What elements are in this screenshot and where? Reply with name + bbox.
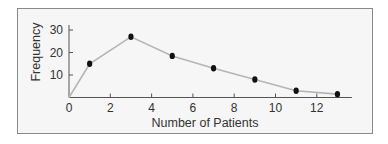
x-tick-label: 12 xyxy=(310,101,324,115)
x-tick-label: 2 xyxy=(107,101,114,115)
data-point xyxy=(335,91,340,97)
y-axis-label: Frequency xyxy=(29,22,43,82)
series-frequency xyxy=(69,34,340,98)
data-point xyxy=(128,34,133,40)
data-point xyxy=(252,76,257,82)
data-point xyxy=(170,53,175,59)
frequency-line-chart: 102030024681012 Number of Patients Frequ… xyxy=(0,0,388,144)
x-tick-label: 10 xyxy=(269,101,283,115)
data-point xyxy=(211,65,216,71)
y-tick-label: 10 xyxy=(50,68,64,82)
y-tick-label: 30 xyxy=(50,23,64,37)
x-axis-label: Number of Patients xyxy=(152,116,259,130)
data-point xyxy=(294,88,299,94)
axes: 102030024681012 xyxy=(50,23,352,115)
x-tick-label: 4 xyxy=(148,101,155,115)
y-tick-label: 20 xyxy=(50,46,64,60)
x-tick-label: 6 xyxy=(190,101,197,115)
data-point xyxy=(87,61,92,67)
x-tick-label: 8 xyxy=(231,101,238,115)
x-tick-label: 0 xyxy=(66,101,73,115)
